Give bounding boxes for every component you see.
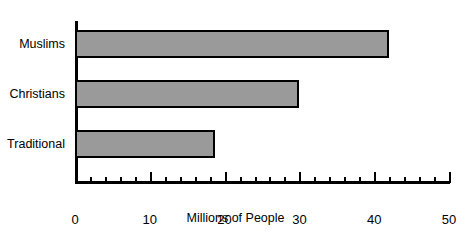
x-minor-tick [389,177,391,183]
x-major-tick [299,172,301,183]
x-minor-tick [344,177,346,183]
bar-christians [75,80,299,108]
x-minor-tick [120,177,122,183]
x-minor-tick [195,177,197,183]
plot-area: MuslimsChristiansTraditional01020304050 [75,22,449,182]
x-minor-tick [434,177,436,183]
x-minor-tick [180,177,182,183]
x-minor-tick [135,177,137,183]
category-label-christians: Christians [9,80,65,108]
bar-chart-figure: MuslimsChristiansTraditional01020304050 … [0,0,471,239]
x-minor-tick [329,177,331,183]
x-minor-tick [314,177,316,183]
x-minor-tick [255,177,257,183]
bar-row: Traditional [75,130,449,158]
bar-row: Muslims [75,30,449,58]
x-minor-tick [165,177,167,183]
x-minor-tick [419,177,421,183]
x-minor-tick [359,177,361,183]
bar-row: Christians [75,80,449,108]
x-major-tick [150,172,152,183]
x-minor-tick [269,177,271,183]
x-major-tick [449,172,451,183]
x-minor-tick [240,177,242,183]
category-label-traditional: Traditional [7,130,65,158]
x-minor-tick [90,177,92,183]
category-label-muslims: Muslims [19,30,65,58]
x-minor-tick [105,177,107,183]
figure-title [8,0,308,5]
bar-traditional [75,130,215,158]
x-major-tick [75,172,77,183]
bar-muslims [75,30,389,58]
x-major-tick [225,172,227,183]
x-minor-tick [210,177,212,183]
x-minor-tick [284,177,286,183]
x-major-tick [374,172,376,183]
x-minor-tick [404,177,406,183]
x-axis-title: Millions of People [0,211,471,225]
